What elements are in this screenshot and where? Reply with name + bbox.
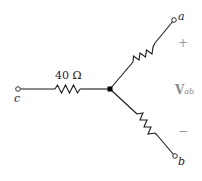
wire-a-upper [155, 22, 172, 43]
voltage-subscript: ab [184, 87, 194, 96]
circuit-schematic [0, 0, 202, 181]
terminal-a-circle [172, 18, 177, 23]
voltage-symbol: V [175, 83, 184, 97]
voltage-vab-label: Vab [175, 84, 194, 96]
terminal-c-circle [16, 87, 21, 92]
terminal-b-circle [173, 154, 178, 159]
voltage-plus-sign: + [178, 37, 188, 49]
resistor-b [137, 113, 157, 135]
resistor-40-ohm [55, 85, 80, 93]
terminal-b-label: b [178, 156, 185, 167]
voltage-minus-sign: − [178, 125, 188, 137]
resistor-a [133, 43, 155, 62]
wire-a-lower [110, 62, 133, 89]
terminal-a-label: a [178, 11, 185, 22]
resistor-c-label: 40 Ω [55, 70, 82, 81]
terminal-c-label: c [14, 93, 20, 104]
junction-node [108, 87, 113, 92]
wire-b-upper [110, 89, 137, 114]
circuit-diagram: 40 Ω c a b + Vab − [0, 0, 202, 181]
wire-b-lower [157, 135, 174, 155]
